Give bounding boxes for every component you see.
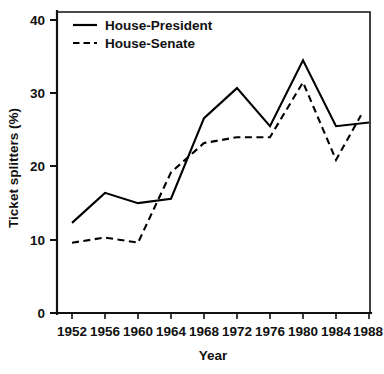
series-line-house-president [72,60,369,223]
y-tick-label-40: 40 [30,13,45,28]
x-axis-title: Year [199,348,228,363]
y-axis-tick-labels: 40 30 20 10 0 [30,13,45,321]
x-tick-label-1984: 1984 [321,324,352,339]
x-tick-label-1960: 1960 [123,324,153,339]
x-tick-label-1956: 1956 [90,324,121,339]
line-chart: 40 30 20 10 0 1952 1956 1960 1964 1968 [0,0,384,374]
chart-container: 40 30 20 10 0 1952 1956 1960 1964 1968 [0,0,384,374]
y-tick-label-30: 30 [30,86,45,101]
y-tick-label-0: 0 [37,306,45,321]
x-tick-label-1988: 1988 [353,324,384,339]
y-tick-label-10: 10 [30,233,45,248]
legend-label-house-president: House-President [105,18,213,33]
x-tick-label-1972: 1972 [222,324,252,339]
legend-label-house-senate: House-Senate [105,36,196,51]
y-tick-label-20: 20 [30,159,45,174]
x-tick-label-1964: 1964 [156,324,187,339]
x-axis-tick-labels: 1952 1956 1960 1964 1968 1972 1976 1980 … [57,324,384,339]
plot-frame [57,12,370,313]
y-axis-title: Ticket splitters (%) [6,108,21,228]
x-tick-label-1976: 1976 [255,324,286,339]
x-tick-label-1968: 1968 [189,324,220,339]
x-tick-label-1980: 1980 [288,324,318,339]
x-tick-label-1952: 1952 [57,324,87,339]
legend: House-President House-Senate [73,18,213,51]
